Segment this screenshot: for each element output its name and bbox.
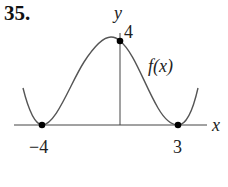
- point-x-3: [175, 122, 182, 129]
- point-x-neg4: [39, 122, 46, 129]
- point-y-4: [117, 38, 124, 45]
- function-label: f(x): [148, 56, 173, 77]
- x-tick-3: 3: [173, 137, 182, 157]
- x-tick-neg4: −4: [29, 137, 48, 157]
- y-axis-label: y: [112, 3, 122, 23]
- function-graph: y x 4 f(x) −4 3: [0, 0, 228, 187]
- x-axis-label: x: [211, 115, 220, 135]
- function-curve: [23, 37, 198, 125]
- y-value-label: 4: [124, 22, 133, 42]
